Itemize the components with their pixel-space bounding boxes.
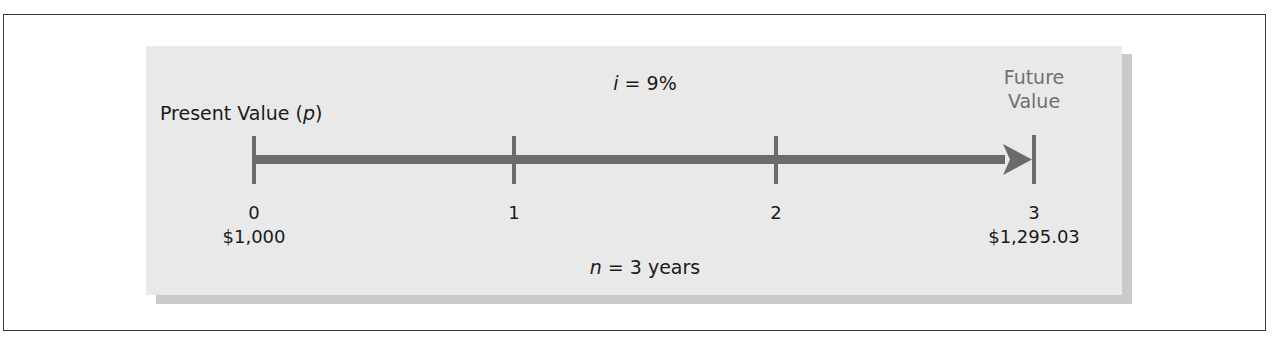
present-value-label: Present Value (p) [160,102,322,124]
period-1-label: 1 [508,201,519,225]
period-1: 1 [508,201,519,225]
timeline-line [253,155,1005,164]
duration-value: = 3 years [602,256,700,278]
timeline-graphic [0,0,1275,338]
tick-3 [1032,135,1036,184]
interest-rate-label: i = 9% [613,72,676,94]
period-3: 3 $1,295.03 [988,201,1080,249]
rate-value: = 9% [619,72,677,94]
period-2: 2 [770,201,781,225]
period-3-value: $1,295.03 [988,225,1080,249]
arrowhead-icon [1003,144,1032,175]
period-0-label: 0 [223,201,286,225]
duration-label: n = 3 years [590,256,700,278]
period-3-label: 3 [988,201,1080,225]
future-value-label: Future Value [1004,65,1065,113]
present-value-variable: p [303,102,315,124]
future-value-line2: Value [1004,89,1065,113]
present-value-text: Present Value ( [160,102,303,124]
tick-0 [252,136,256,184]
present-value-close: ) [315,102,322,124]
duration-variable: n [590,256,602,278]
tick-2 [774,136,778,184]
period-2-label: 2 [770,201,781,225]
period-0-value: $1,000 [223,225,286,249]
period-0: 0 $1,000 [223,201,286,249]
future-value-line1: Future [1004,65,1065,89]
tick-1 [512,136,516,184]
